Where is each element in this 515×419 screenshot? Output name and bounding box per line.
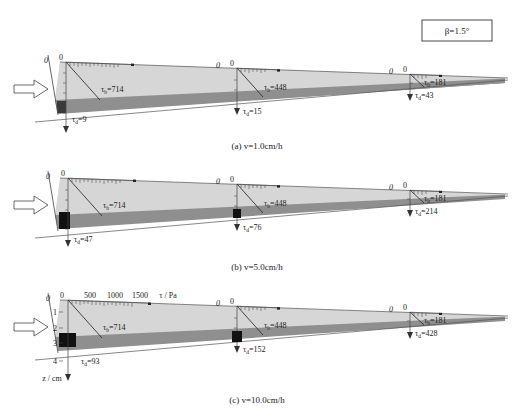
panel-b-station-3-zero: 0: [403, 181, 407, 190]
panel-a-caption: (a) v=1.0cm/h: [231, 141, 283, 151]
panel-a-station-3-endmark: [439, 75, 442, 77]
panel-b-caption: (b) v=5.0cm/h: [231, 262, 283, 272]
panel-c-y-axis-label: z / cm: [42, 374, 62, 383]
panel-c-station-2-zero: 0: [230, 297, 234, 306]
beta-annotation-label: β=1.5°: [445, 26, 470, 36]
panel-b-station-1-taud-label: τd=47: [74, 235, 93, 245]
panel-b-station-2-endmark: [277, 185, 280, 187]
panel-c-caption: (c) v=10.0cm/h: [229, 395, 285, 405]
panel-a-station-3-taud-label: τd=43: [415, 91, 434, 101]
panel-b-station-1-zero: 0: [61, 169, 65, 178]
panel-a-station-2-zero-slant: 0: [216, 61, 220, 70]
beta-annotation: β=1.5°: [422, 20, 492, 41]
panel-a-station-1-zero: 0: [59, 53, 63, 62]
panel-c-station-3-zero-slant: 0: [389, 305, 393, 314]
panel-c-station-1-taud-label: τd=93: [81, 357, 100, 367]
panel-c-ytick-4: 4: [53, 357, 57, 366]
figure-root: τb=714 τd=9 0 0 τb=448 τd=15 0 0: [0, 0, 515, 419]
panel-a-station-2-taud-label: τd=15: [243, 107, 262, 117]
panel-c-xtick-1500: 1500: [132, 291, 148, 300]
panel-a-station-3-zero-slant: 0: [389, 67, 393, 76]
panel-b-station-3-zero-slant: 0: [389, 183, 393, 192]
panel-b-station-3-endmark: [439, 191, 442, 193]
panel-a-station-1-zero-slant: 0: [44, 56, 48, 65]
panel-a-station-2-endmark: [277, 69, 280, 71]
panel-a-station-1-taud-label: τd=9: [72, 115, 87, 125]
panel-b-station-2-block: [233, 209, 241, 218]
panel-b-station-1-zero-slant: 0: [46, 172, 50, 181]
panel-a-left-block: [57, 101, 66, 113]
sediment-wedge-figure: τb=714 τd=9 0 0 τb=448 τd=15 0 0: [0, 0, 515, 419]
panel-c-station-3-endmark: [439, 313, 442, 315]
panel-a-station-3-zero: 0: [403, 65, 407, 74]
panel-c-xtick-0: 0: [60, 291, 64, 300]
panel-b-station-2-taud-label: τd=76: [243, 223, 262, 233]
panel-c-x-axis-label: τ / Pa: [159, 291, 177, 300]
panel-c-ytick-3: 3: [53, 339, 57, 348]
panel-c-station-2-zero-slant: 0: [216, 299, 220, 308]
panel-c-ytick-1: 1: [53, 308, 57, 317]
panel-c-station-3-zero: 0: [403, 303, 407, 312]
panel-c-zero-slant: 0: [46, 294, 50, 303]
panel-b-station-2-zero-slant: 0: [216, 177, 220, 186]
panel-c-ytick-2: 2: [53, 324, 57, 333]
panel-b-station-1-endmark: [133, 180, 136, 182]
panel-a-station-2-zero: 0: [230, 59, 234, 68]
panel-c-xtick-500: 500: [84, 291, 96, 300]
panel-c-xtick-1000: 1000: [107, 291, 123, 300]
panel-c-station-2-block: [232, 331, 242, 342]
panel-c-station-1-endmark: [148, 303, 151, 305]
panel-a-station-1-endmark: [131, 64, 134, 66]
panel-c-left-block: [59, 333, 76, 347]
panel-c-station-2-endmark: [277, 307, 280, 309]
panel-b-station-2-zero: 0: [230, 175, 234, 184]
